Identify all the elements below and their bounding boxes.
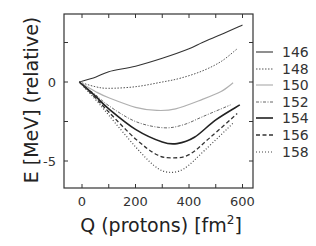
- curve-152: [79, 82, 230, 128]
- legend: 146148150152154156158: [256, 44, 309, 160]
- chart-canvas: 02004006000-5 146148150152154156158 E [M…: [0, 0, 316, 246]
- axis-ticks: 02004006000-5: [43, 14, 255, 209]
- curve-156: [79, 82, 237, 158]
- curve-148: [79, 49, 237, 89]
- legend-label-146: 146: [282, 44, 309, 60]
- y-tick-label: -5: [43, 154, 56, 169]
- y-axis-title: E [MeV] (relative): [20, 17, 42, 183]
- curve-154: [79, 82, 240, 144]
- legend-label-148: 148: [282, 61, 309, 77]
- plot-border: [64, 14, 253, 188]
- x-tick-label: 400: [177, 194, 202, 209]
- y-tick-label: 0: [48, 75, 56, 90]
- legend-label-158: 158: [282, 144, 309, 160]
- x-axis-title: Q (protons) [fm2]: [80, 213, 242, 236]
- y-axis-title-group: E [MeV] (relative): [20, 17, 42, 183]
- legend-label-154: 154: [282, 110, 309, 126]
- legend-label-152: 152: [282, 94, 309, 110]
- legend-label-156: 156: [282, 127, 309, 143]
- curve-146: [79, 25, 242, 82]
- curve-150: [79, 82, 233, 111]
- x-tick-label: 600: [230, 194, 255, 209]
- legend-label-150: 150: [282, 77, 309, 93]
- data-curves: [79, 25, 242, 172]
- x-tick-label: 200: [123, 194, 148, 209]
- x-tick-label: 0: [78, 194, 86, 209]
- plot-frame: [64, 14, 253, 188]
